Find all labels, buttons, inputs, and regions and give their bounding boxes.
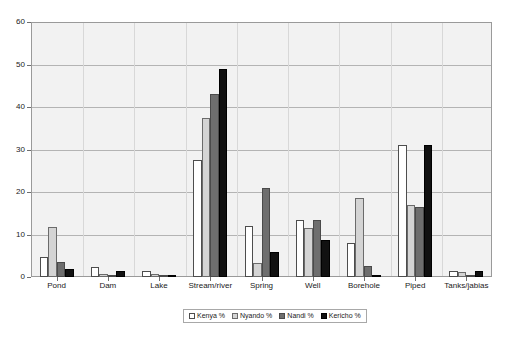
bar — [202, 118, 211, 277]
bar — [142, 271, 151, 277]
bar-group — [347, 22, 381, 277]
bar — [296, 220, 305, 277]
x-tick-label: Borehole — [348, 281, 380, 291]
bar — [116, 271, 125, 277]
bar — [91, 267, 100, 277]
bar-group — [296, 22, 330, 277]
bar — [355, 198, 364, 277]
bar — [210, 94, 219, 277]
bar — [65, 269, 74, 277]
bar — [193, 160, 202, 277]
bar — [407, 205, 416, 277]
bar — [321, 240, 330, 277]
bar — [40, 257, 49, 277]
x-tick-label: Pond — [47, 281, 66, 291]
x-tick-label: Well — [305, 281, 320, 291]
bar — [475, 271, 484, 277]
y-tick-label: 30 — [16, 146, 25, 154]
bar — [168, 275, 177, 277]
bar-chart: 0102030405060 PondDamLakeStream/riverSpr… — [0, 0, 508, 343]
y-tick-label: 40 — [16, 103, 25, 111]
bar-group — [193, 22, 227, 277]
bar — [57, 262, 66, 277]
legend-label: Nyando % — [240, 312, 272, 320]
bar — [313, 220, 322, 277]
bar-group — [40, 22, 74, 277]
bar — [48, 227, 57, 277]
bar — [159, 275, 168, 277]
bar-group — [245, 22, 279, 277]
x-tick-label: Tanks/jabias — [444, 281, 488, 291]
bar — [108, 275, 117, 277]
bar — [253, 263, 262, 277]
legend-swatch-icon — [189, 313, 195, 319]
bar — [151, 274, 160, 277]
chart-legend: Kenya %Nyando %Nandi %Kericho % — [183, 309, 367, 323]
bar — [449, 271, 458, 277]
bar — [99, 274, 108, 277]
bar — [364, 266, 373, 277]
x-tick-label: Dam — [99, 281, 116, 291]
bar — [270, 252, 279, 278]
bar-group — [91, 22, 125, 277]
bar — [466, 275, 475, 277]
y-tick-label: 50 — [16, 61, 25, 69]
legend-label: Nandi % — [287, 312, 313, 320]
legend-item[interactable]: Kericho % — [321, 312, 361, 320]
bar — [245, 226, 254, 277]
legend-swatch-icon — [232, 313, 238, 319]
y-tick-label: 20 — [16, 188, 25, 196]
bar — [415, 207, 424, 277]
x-tick-label: Lake — [150, 281, 167, 291]
y-tick-mark — [27, 277, 31, 278]
legend-label: Kenya % — [197, 312, 225, 320]
bar — [398, 145, 407, 277]
legend-swatch-icon — [321, 313, 327, 319]
x-tick-label: Piped — [405, 281, 425, 291]
y-tick-label: 60 — [16, 18, 25, 26]
legend-item[interactable]: Kenya % — [189, 312, 225, 320]
bar — [424, 145, 433, 277]
legend-swatch-icon — [279, 313, 285, 319]
bar-group — [449, 22, 483, 277]
x-tick-label: Spring — [250, 281, 273, 291]
bar — [219, 69, 228, 277]
bars-layer — [31, 22, 492, 277]
legend-item[interactable]: Nandi % — [279, 312, 313, 320]
x-axis: PondDamLakeStream/riverSpringWellBorehol… — [31, 281, 492, 297]
bar — [347, 243, 356, 277]
legend-label: Kericho % — [329, 312, 361, 320]
legend-item[interactable]: Nyando % — [232, 312, 272, 320]
bar-group — [142, 22, 176, 277]
y-tick-label: 0 — [21, 273, 25, 281]
y-tick-label: 10 — [16, 231, 25, 239]
y-axis: 0102030405060 — [0, 22, 31, 277]
bar — [372, 275, 381, 277]
x-tick-label: Stream/river — [188, 281, 232, 291]
bar — [262, 188, 271, 277]
bar-group — [398, 22, 432, 277]
bar — [458, 272, 467, 277]
bar — [304, 228, 313, 277]
